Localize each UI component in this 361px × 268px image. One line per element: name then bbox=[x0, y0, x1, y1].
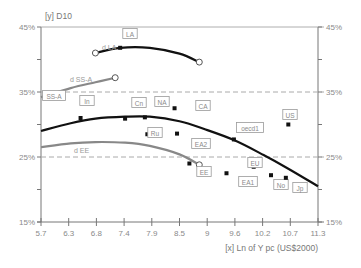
point-label: CA bbox=[198, 103, 208, 110]
x-tick-label: 7.4 bbox=[119, 229, 131, 238]
x-tick-label: 7.9 bbox=[146, 229, 158, 238]
curve-label: d SS-A bbox=[70, 76, 93, 83]
data-point-oecd1 bbox=[232, 137, 236, 141]
x-tick-label: 9 bbox=[205, 229, 210, 238]
y-tick-label: 35% bbox=[19, 88, 35, 97]
y-tick-label-right: 35% bbox=[326, 88, 342, 97]
axes: 15%25%35%45%15%25%35%45%5.76.36.87.47.98… bbox=[19, 23, 342, 238]
y-tick-label-right: 45% bbox=[326, 23, 342, 32]
point-label: EA1 bbox=[242, 179, 255, 186]
curve-d-ee bbox=[41, 142, 199, 165]
point-label: Jp bbox=[297, 185, 304, 193]
y-tick-label-right: 25% bbox=[326, 153, 342, 162]
data-point-na bbox=[143, 115, 147, 119]
y-tick-label: 45% bbox=[19, 23, 35, 32]
endpoint-marker bbox=[92, 50, 98, 56]
point-label: Ru bbox=[151, 130, 160, 137]
point-label: In bbox=[84, 98, 90, 105]
data-point-ea2 bbox=[175, 132, 179, 136]
x-tick-label: 9.6 bbox=[229, 229, 241, 238]
data-point-cn bbox=[123, 117, 127, 121]
fit-curves: d LAd SS-Ad EE bbox=[41, 44, 318, 186]
y-tick-label: 25% bbox=[19, 153, 35, 162]
y-axis-title: [y] D10 bbox=[45, 11, 72, 21]
point-label: No bbox=[277, 182, 286, 189]
y-tick-label: 15% bbox=[19, 218, 35, 227]
data-point-la bbox=[118, 46, 122, 50]
data-point-ea1 bbox=[224, 171, 228, 175]
x-tick-label: 6.8 bbox=[91, 229, 103, 238]
x-tick-label: 8.5 bbox=[174, 229, 186, 238]
point-label: US bbox=[285, 112, 295, 119]
x-tick-label: 6.3 bbox=[63, 229, 75, 238]
curve-label: d LA bbox=[102, 44, 117, 51]
endpoint-marker bbox=[112, 75, 118, 81]
chart: 15%25%35%45%15%25%35%45%5.76.36.87.47.98… bbox=[0, 0, 361, 268]
point-label: EE bbox=[200, 169, 209, 176]
endpoint-marker bbox=[196, 59, 202, 65]
x-tick-label: 11.3 bbox=[311, 229, 327, 238]
point-label: EU bbox=[250, 160, 259, 167]
point-label: SS-A bbox=[46, 93, 62, 100]
data-point-no bbox=[269, 173, 273, 177]
point-label: NA bbox=[157, 99, 167, 106]
curve-label: d EE bbox=[74, 147, 90, 154]
data-point-jp bbox=[284, 176, 288, 180]
x-axis-title: [x] Ln of Y pc (US$2000) bbox=[225, 243, 318, 253]
point-label: Cn bbox=[135, 100, 144, 107]
x-tick-label: 10.7 bbox=[283, 229, 299, 238]
data-point-ca bbox=[173, 106, 177, 110]
data-point-ee bbox=[187, 162, 191, 166]
point-label: LA bbox=[126, 31, 135, 38]
x-tick-label: 5.7 bbox=[35, 229, 47, 238]
data-point-in bbox=[79, 116, 83, 120]
point-label: EA2 bbox=[195, 141, 208, 148]
y-tick-label-right: 15% bbox=[326, 218, 342, 227]
x-tick-label: 10.2 bbox=[255, 229, 271, 238]
point-label: oecd1 bbox=[241, 125, 259, 132]
data-point-us bbox=[286, 123, 290, 127]
